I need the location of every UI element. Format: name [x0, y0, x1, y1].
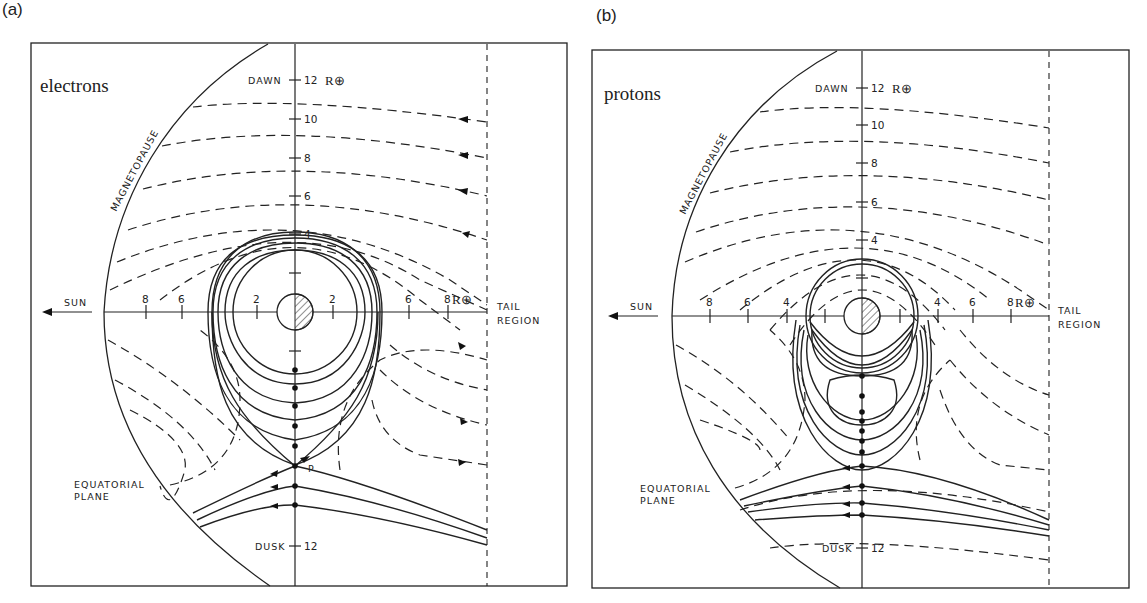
svg-text:6: 6 [178, 293, 185, 305]
sun-arrow-icon [42, 308, 52, 316]
svg-text:R⊕: R⊕ [325, 73, 345, 88]
svg-text:R⊕: R⊕ [892, 81, 912, 96]
panel-a: electrons MAGNETOPAUSE SUN TAIL REGION D… [31, 43, 567, 586]
svg-text:12: 12 [304, 74, 317, 86]
tail-label-1: TAIL [496, 301, 521, 312]
svg-text:6: 6 [304, 190, 311, 202]
svg-text:6: 6 [969, 296, 976, 308]
svg-text:10: 10 [871, 119, 884, 131]
svg-text:R⊕: R⊕ [452, 292, 472, 307]
magnetopause-label: MAGNETOPAUSE [677, 131, 729, 216]
sun-label: SUN [630, 301, 653, 312]
svg-text:8: 8 [706, 296, 713, 308]
dusk-label: DUSK [822, 543, 853, 554]
svg-text:R⊕: R⊕ [1015, 295, 1035, 310]
svg-text:12: 12 [871, 82, 884, 94]
svg-text:8: 8 [444, 293, 451, 305]
svg-text:DAWN: DAWN [815, 83, 849, 94]
svg-text:DAWN: DAWN [248, 75, 282, 86]
equatorial-plane-label-1: EQUATORIAL [640, 483, 711, 494]
svg-text:2: 2 [253, 293, 260, 305]
magnetopause-boundary [672, 51, 840, 588]
x-point-label: P [308, 463, 315, 474]
open-proton-drift-paths [740, 466, 1049, 536]
svg-text:8: 8 [304, 152, 311, 164]
svg-text:8: 8 [1007, 296, 1014, 308]
stagnation-points [842, 373, 865, 518]
magnetopause-label: MAGNETOPAUSE [108, 128, 160, 213]
earth-icon [844, 298, 880, 334]
magnetosphere-diagram: electrons MAGNETOPAUSE SUN TAIL REGION D… [0, 0, 1147, 603]
convection-streamlines-dusk [108, 330, 487, 500]
dusk-tick-label: 12 [871, 542, 884, 554]
dusk-tick-label: 12 [304, 540, 317, 552]
sun-arrow-icon [608, 312, 618, 320]
dusk-label: DUSK [255, 541, 286, 552]
open-electron-drift-paths [193, 466, 487, 545]
earth-icon [277, 294, 313, 330]
magnetopause-boundary [104, 44, 270, 586]
sun-label: SUN [64, 297, 87, 308]
tail-label-2: REGION [1058, 319, 1101, 330]
svg-text:2: 2 [329, 293, 336, 305]
svg-text:6: 6 [871, 196, 878, 208]
species-label-protons: protons [604, 83, 661, 104]
equatorial-plane-label-1: EQUATORIAL [74, 479, 145, 490]
panel-b: protons MAGNETOPAUSE SUN TAIL REGION DAW… [592, 50, 1129, 588]
equatorial-plane-label-2: PLANE [640, 495, 676, 506]
species-label-electrons: electrons [40, 75, 109, 96]
svg-text:8: 8 [142, 293, 149, 305]
svg-text:10: 10 [304, 113, 317, 125]
svg-text:4: 4 [871, 234, 878, 246]
svg-text:8: 8 [871, 157, 878, 169]
dawn-axis-ticks: DAWN 12 R⊕ 10 8 6 4 [815, 81, 912, 278]
svg-text:4: 4 [934, 296, 941, 308]
equatorial-plane-label-2: PLANE [74, 491, 110, 502]
svg-text:4: 4 [783, 296, 790, 308]
svg-text:6: 6 [405, 293, 412, 305]
tail-label-2: REGION [497, 315, 540, 326]
tail-label-1: TAIL [1057, 305, 1082, 316]
